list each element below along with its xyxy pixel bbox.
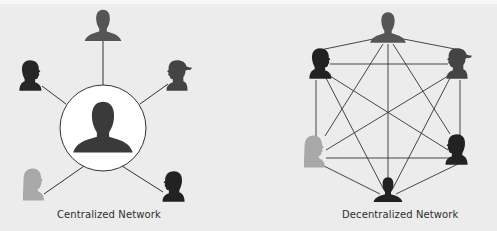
network-diagrams (0, 0, 497, 231)
person-icon-right (446, 134, 468, 164)
centralized-network-caption: Centralized Network (57, 209, 161, 220)
link-bottom-left (44, 164, 87, 194)
person-icon-left (304, 136, 325, 168)
link-top-left (42, 86, 66, 104)
decentralized-network (304, 12, 472, 202)
person-icon-top (85, 10, 122, 41)
person-icon-bottom (374, 177, 403, 202)
person-icon-top-left (309, 48, 331, 78)
person-icon-top-right (167, 60, 192, 90)
decentralized-links (316, 36, 460, 194)
person-icon-bottom-left (23, 169, 44, 201)
centralized-network (19, 10, 191, 202)
decentralized-network-caption: Decentralized Network (342, 209, 458, 220)
person-icon-top (370, 12, 406, 42)
person-icon-bottom-right (163, 171, 185, 201)
person-icon-top-right (447, 48, 472, 78)
link-bottom-right (122, 166, 163, 192)
person-icon-top-left (19, 60, 41, 90)
link-top-right (140, 84, 168, 104)
